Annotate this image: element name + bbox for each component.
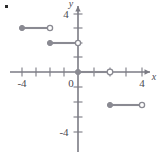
y-tick-label-4: 4 bbox=[63, 8, 69, 20]
x-axis-label: x bbox=[151, 71, 157, 82]
data-series-step-function bbox=[19, 25, 144, 107]
y-tick-label--4: -4 bbox=[59, 126, 69, 138]
x-tick-label-0: 0 bbox=[68, 77, 74, 89]
segment-3-open-endpoint bbox=[107, 69, 113, 75]
segment-4 bbox=[107, 102, 144, 107]
segment-2-closed-endpoint bbox=[47, 40, 52, 45]
segment-2 bbox=[47, 40, 80, 45]
x-axis-arrow bbox=[145, 69, 151, 74]
segment-1 bbox=[19, 25, 52, 30]
graph-figure: -4 0 4 4 -4 x y bbox=[0, 0, 162, 158]
x-tick-label--4: -4 bbox=[17, 77, 27, 89]
step-function-plot: -4 0 4 4 -4 x y bbox=[0, 0, 162, 158]
x-tick-label-4: 4 bbox=[139, 77, 145, 89]
segment-1-closed-endpoint bbox=[19, 25, 24, 30]
segment-2-open-endpoint bbox=[75, 40, 80, 45]
segment-4-open-endpoint bbox=[139, 102, 144, 107]
y-axis-label: y bbox=[68, 0, 74, 9]
segment-3-closed-endpoint bbox=[75, 69, 80, 74]
segment-1-open-endpoint bbox=[47, 25, 52, 30]
segment-4-closed-endpoint bbox=[107, 102, 112, 107]
y-axis-arrow bbox=[75, 6, 80, 12]
